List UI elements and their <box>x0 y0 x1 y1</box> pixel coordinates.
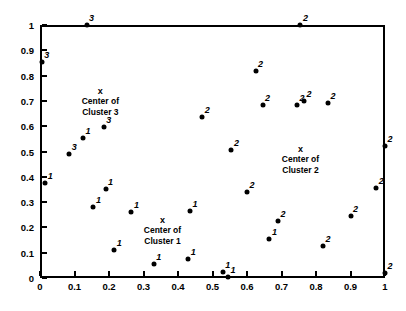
data-point <box>101 125 106 130</box>
y-axis-tick <box>42 125 47 127</box>
cluster-center-x-marker: x <box>82 86 119 96</box>
y-axis-tick <box>42 151 47 153</box>
cluster-center-label-line2: Cluster 1 <box>144 236 181 247</box>
cluster-center-label-line1: Center of <box>144 225 181 236</box>
x-axis-tick-label: 0.1 <box>68 281 81 292</box>
data-point <box>151 262 156 267</box>
x-axis-tick-label: 0.6 <box>240 281 253 292</box>
x-axis-tick-label: 0.8 <box>309 281 322 292</box>
x-axis-tick-label: 0.4 <box>171 281 184 292</box>
y-axis-tick-label: 0.7 <box>4 95 34 106</box>
data-point <box>186 257 191 262</box>
data-point-cluster-label: 1 <box>86 126 91 136</box>
data-point-cluster-label: 1 <box>193 199 198 209</box>
y-axis-tick <box>42 100 47 102</box>
x-axis-tick <box>39 271 41 276</box>
cluster-center-annotation: xCenter ofCluster 3 <box>82 86 119 117</box>
cluster-center-x-marker: x <box>144 215 181 225</box>
x-axis-tick-label: 1 <box>382 281 387 292</box>
x-axis-tick-label: 0.5 <box>206 281 219 292</box>
y-axis-tick-label: 0.4 <box>4 171 34 182</box>
data-point-cluster-label: 2 <box>306 89 311 99</box>
cluster-center-label-line1: Center of <box>282 154 319 165</box>
cluster-center-label-line1: Center of <box>82 96 119 107</box>
cluster-center-label-line2: Cluster 3 <box>82 107 119 118</box>
y-axis-tick-label: 0.1 <box>4 247 34 258</box>
x-axis-tick <box>212 271 214 276</box>
y-axis-tick <box>42 277 47 279</box>
y-axis-tick-label: 0.3 <box>4 197 34 208</box>
x-axis-tick <box>143 271 145 276</box>
data-point <box>348 214 353 219</box>
data-point <box>81 135 86 140</box>
data-point <box>260 102 265 107</box>
x-axis-tick <box>74 271 76 276</box>
data-point-cluster-label: 2 <box>234 138 239 148</box>
data-point <box>200 115 205 120</box>
data-point <box>43 181 48 186</box>
data-point-cluster-label: 2 <box>387 134 392 144</box>
y-axis-tick <box>42 226 47 228</box>
data-point <box>383 144 388 149</box>
data-point <box>320 244 325 249</box>
data-point <box>67 152 72 157</box>
data-point <box>103 187 108 192</box>
data-point-cluster-label: 3 <box>89 13 94 23</box>
data-point <box>298 23 303 28</box>
data-point <box>39 59 44 64</box>
data-point-cluster-label: 2 <box>249 180 254 190</box>
data-point-cluster-label: 1 <box>48 171 53 181</box>
data-point-cluster-label: 2 <box>387 261 392 271</box>
data-point <box>112 248 117 253</box>
data-point <box>226 274 231 279</box>
data-point <box>245 189 250 194</box>
cluster-center-x-marker: x <box>282 144 319 154</box>
data-point <box>374 186 379 191</box>
x-axis-tick-label: 0.2 <box>102 281 115 292</box>
data-point <box>276 219 281 224</box>
x-axis-tick <box>177 271 179 276</box>
data-point <box>229 148 234 153</box>
data-point-cluster-label: 2 <box>325 234 330 244</box>
y-axis-tick <box>42 252 47 254</box>
data-point <box>301 98 306 103</box>
x-axis-tick <box>315 271 317 276</box>
data-point-cluster-label: 2 <box>265 93 270 103</box>
x-axis-tick <box>108 271 110 276</box>
plot-frame <box>40 25 385 278</box>
y-axis-tick-label: 0.6 <box>4 121 34 132</box>
data-point-cluster-label: 1 <box>134 200 139 210</box>
data-point-cluster-label: 1 <box>231 265 236 275</box>
cluster-center-annotation: xCenter ofCluster 1 <box>144 215 181 246</box>
data-point <box>188 208 193 213</box>
data-point-cluster-label: 1 <box>96 195 101 205</box>
data-point-cluster-label: 2 <box>379 176 384 186</box>
data-point <box>267 236 272 241</box>
data-point-cluster-label: 2 <box>303 13 308 23</box>
data-point-cluster-label: 1 <box>156 252 161 262</box>
y-axis-tick-label: 0.9 <box>4 45 34 56</box>
x-axis-tick <box>281 271 283 276</box>
data-point-cluster-label: 2 <box>331 91 336 101</box>
x-axis-tick-label: 0.9 <box>344 281 357 292</box>
data-point <box>91 205 96 210</box>
cluster-center-annotation: xCenter ofCluster 2 <box>282 144 319 175</box>
data-point-cluster-label: 1 <box>272 227 277 237</box>
y-axis-tick <box>42 201 47 203</box>
data-point <box>84 23 89 28</box>
data-point <box>253 68 258 73</box>
x-axis-tick <box>350 271 352 276</box>
data-point-cluster-label: 3 <box>72 142 77 152</box>
y-axis-tick-label: 0 <box>4 273 34 284</box>
data-point-cluster-label: 1 <box>108 177 113 187</box>
data-point-cluster-label: 2 <box>353 204 358 214</box>
y-axis-tick-label: 1 <box>4 20 34 31</box>
data-point-cluster-label: 2 <box>205 105 210 115</box>
data-point-cluster-label: 1 <box>117 238 122 248</box>
y-axis-tick <box>42 24 47 26</box>
data-point-cluster-label: 2 <box>258 59 263 69</box>
x-axis-tick-label: 0.7 <box>275 281 288 292</box>
data-point <box>295 102 300 107</box>
scatter-plot-figure: 00.10.20.30.40.50.60.70.80.9100.10.20.30… <box>0 0 406 311</box>
data-point-cluster-label: 2 <box>281 209 286 219</box>
